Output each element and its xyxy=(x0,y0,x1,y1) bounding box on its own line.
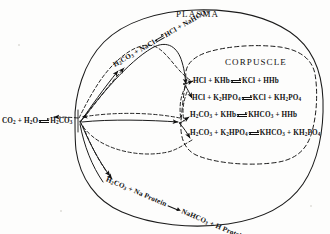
corpuscle-region-label: CORPUSCLE xyxy=(225,58,287,67)
eq-rhs: KCl + KH xyxy=(253,94,286,102)
eq-lhs: HPO xyxy=(229,129,245,137)
eq-sub: 4 xyxy=(299,96,302,102)
eq-sub: 3 xyxy=(70,119,73,125)
eq-sub: 4 xyxy=(318,131,321,137)
eq-rhs: KCl + HHb xyxy=(242,77,279,85)
scan-speck xyxy=(310,205,312,207)
eq-lhs: + KHb xyxy=(212,111,236,119)
reversible-arrow-icon xyxy=(39,118,49,125)
diagram-canvas: PLASMA CORPUSCLE CO2 + H2OH2CO3 H2CO3 + … xyxy=(0,0,330,234)
reversible-arrow-icon xyxy=(231,78,241,85)
scan-speck xyxy=(18,44,20,46)
scan-speck xyxy=(60,210,62,212)
eq-lhs-co2: CO xyxy=(2,117,13,125)
eq-lhs: CO xyxy=(199,129,210,137)
equation-carbonic-acid-formation: CO2 + H2OH2CO3 xyxy=(2,118,73,125)
eq-rhs: PO xyxy=(307,129,317,137)
eq-rhs: KHCO xyxy=(260,129,283,137)
eq-lhs: HPO xyxy=(222,94,238,102)
eq-rhs: + HHb xyxy=(273,111,297,119)
eq-lhs-plus-h: + H xyxy=(16,117,30,125)
equation-hcl-phosphate: HCl + K2HPO4KCl + KH2PO4 xyxy=(192,95,301,102)
reversible-arrow-icon xyxy=(237,112,247,119)
equation-carbonic-hemoglobin: H2CO3 + KHbKHCO3 + HHb xyxy=(190,112,297,119)
eq-rhs: PO xyxy=(288,94,298,102)
eq-rhs: + KH xyxy=(285,129,305,137)
eq-rhs-co: CO xyxy=(59,117,70,125)
eq-lhs: + K xyxy=(212,129,226,137)
eq-lhs: HCl + KHb xyxy=(193,77,230,85)
eq-lhs: CO xyxy=(199,111,210,119)
reversible-arrow-icon xyxy=(249,130,259,137)
reversible-arrow-icon xyxy=(242,95,252,102)
eq-lhs: HCl + K xyxy=(192,94,219,102)
equation-carbonic-phosphate: H2CO3 + K2HPO4KHCO3 + KH2PO4 xyxy=(190,130,321,137)
eq-rhs: KHCO xyxy=(248,111,271,119)
equation-hcl-hemoglobin: HCl + KHbKCl + HHb xyxy=(193,78,279,85)
